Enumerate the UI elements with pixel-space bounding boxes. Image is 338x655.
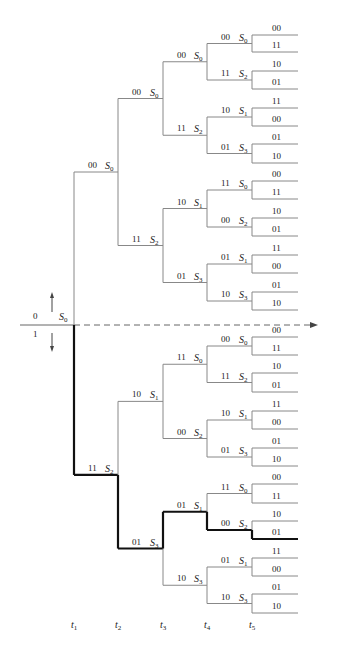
leaf-output-bits: 11: [272, 546, 281, 556]
branch-state-label: S2: [239, 215, 248, 228]
branch-output-bits: 11: [221, 178, 230, 188]
branch-output-bits: 10: [177, 197, 187, 207]
branch-state-label: S3: [194, 271, 203, 284]
branch-state-label: S2: [239, 68, 248, 81]
branch-output-bits: 00: [221, 334, 231, 344]
branch-state-label: S1: [239, 408, 248, 421]
branch-state-label: S1: [239, 555, 248, 568]
leaf-output-bits: 00: [272, 325, 282, 335]
code-tree-diagram: 0 1 S0 00S000S000S000S0001111S2100111S21…: [0, 0, 338, 655]
branch-output-bits: 00: [177, 50, 187, 60]
axis-arrowhead-icon: [310, 322, 318, 328]
branch-output-bits: 01: [132, 537, 141, 547]
branch-state-label: S0: [239, 482, 248, 495]
input-one-label: 1: [33, 329, 38, 339]
leaf-output-bits: 01: [272, 527, 281, 537]
root-state-label: S0: [59, 311, 68, 324]
branch-output-bits: 01: [221, 555, 230, 565]
time-label-t5: t5: [249, 619, 256, 632]
branch-state-label: S2: [194, 123, 203, 136]
branch-state-label: S0: [105, 160, 114, 173]
branch-state-label: S2: [150, 234, 159, 247]
branch-output-bits: 11: [221, 68, 230, 78]
branch-output-bits: 00: [221, 518, 231, 528]
leaf-output-bits: 10: [272, 206, 282, 216]
branch-state-label: S1: [239, 252, 248, 265]
leaf-output-bits: 11: [272, 40, 281, 50]
leaf-output-bits: 10: [272, 59, 282, 69]
branch-layer: [74, 35, 298, 613]
time-label-t3: t3: [160, 619, 167, 632]
leaf-output-bits: 11: [272, 187, 281, 197]
leaf-output-bits: 11: [272, 243, 281, 253]
branch-output-bits: 11: [221, 371, 230, 381]
branch-output-bits: 11: [177, 123, 186, 133]
leaf-output-bits: 00: [272, 472, 282, 482]
leaf-output-bits: 10: [272, 454, 282, 464]
branch-state-label: S3: [194, 573, 203, 586]
leaf-output-bits: 11: [272, 96, 281, 106]
input-zero-label: 0: [33, 311, 38, 321]
leaf-output-bits: 00: [272, 261, 282, 271]
branch-output-bits: 00: [88, 160, 98, 170]
branch-state-label: S0: [194, 50, 203, 63]
branch-state-label: S1: [194, 197, 203, 210]
branch-output-bits: 11: [132, 234, 141, 244]
leaf-output-bits: 01: [272, 132, 281, 142]
branch-output-bits: 10: [221, 289, 231, 299]
branch-state-label: S0: [239, 178, 248, 191]
leaf-output-bits: 11: [272, 491, 281, 501]
branch-output-bits: 01: [221, 445, 230, 455]
branch-output-bits: 10: [177, 573, 187, 583]
branch-state-label: S0: [239, 32, 248, 45]
branch-state-label: S0: [194, 352, 203, 365]
branch-state-label: S2: [194, 427, 203, 440]
up-arrow-icon: [50, 292, 54, 298]
leaf-output-bits: 10: [272, 509, 282, 519]
branch-output-bits: 00: [221, 215, 231, 225]
leaf-output-bits: 01: [272, 77, 281, 87]
leaf-output-bits: 01: [272, 582, 281, 592]
leaf-output-bits: 00: [272, 23, 282, 33]
branch-output-bits: 10: [221, 105, 231, 115]
branch-output-bits: 10: [221, 592, 231, 602]
leaf-output-bits: 10: [272, 298, 282, 308]
time-label-t4: t4: [204, 619, 211, 632]
leaf-output-bits: 10: [272, 361, 282, 371]
branch-output-bits: 01: [221, 142, 230, 152]
branch-output-bits: 01: [221, 252, 230, 262]
leaf-output-bits: 01: [272, 280, 281, 290]
time-axis-labels: t1t2t3t4t5: [71, 619, 256, 632]
branch-state-label: S3: [239, 142, 248, 155]
leaf-output-bits: 00: [272, 564, 282, 574]
leaf-output-bits: 01: [272, 380, 281, 390]
branch-output-bits: 01: [177, 500, 186, 510]
branch-output-bits: 01: [177, 271, 186, 281]
branch-output-bits: 00: [177, 427, 187, 437]
branch-state-label: S1: [150, 389, 159, 402]
leaf-output-bits: 00: [272, 417, 282, 427]
time-label-t1: t1: [71, 619, 78, 632]
leaf-output-bits: 01: [272, 436, 281, 446]
leaf-output-bits: 00: [272, 114, 282, 124]
branch-state-label: S2: [239, 371, 248, 384]
leaf-output-bits: 00: [272, 169, 282, 179]
branch-state-label: S1: [239, 105, 248, 118]
branch-output-bits: 11: [221, 482, 230, 492]
branch-output-bits: 10: [221, 408, 231, 418]
branch-state-label: S3: [239, 592, 248, 605]
leaf-output-bits: 11: [272, 343, 281, 353]
branch-output-bits: 00: [221, 32, 231, 42]
branch-output-bits: 10: [132, 389, 142, 399]
leaf-output-bits: 10: [272, 601, 282, 611]
leaf-output-bits: 11: [272, 399, 281, 409]
branch-state-label: S0: [150, 87, 159, 100]
branch-state-label: S0: [239, 334, 248, 347]
leaf-output-bits: 10: [272, 151, 282, 161]
branch-output-bits: 11: [88, 463, 97, 473]
leaf-output-bits: 01: [272, 224, 281, 234]
branch-output-bits: 00: [132, 87, 142, 97]
down-arrow-icon: [50, 346, 54, 352]
time-label-t2: t2: [115, 619, 122, 632]
branch-output-bits: 11: [177, 352, 186, 362]
